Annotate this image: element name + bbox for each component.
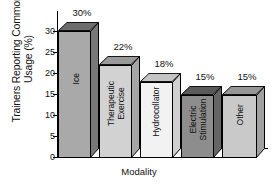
- bar-label-therapeutic-exercise: Therapeutic Exercise: [107, 73, 126, 135]
- bar-label-hydrocollator: Hydrocollator: [152, 84, 162, 140]
- bar-label-other: Other: [236, 93, 246, 137]
- bar-chart: Trainers Reporting Common Usage (%) 30 2…: [0, 0, 278, 186]
- value-label-hydrocollator: 18%: [143, 59, 185, 69]
- value-label-ice: 30%: [61, 8, 103, 18]
- bar-ice[interactable]: Ice: [58, 22, 99, 158]
- bar-therapeutic-exercise-side-face: [131, 56, 140, 158]
- bar-other[interactable]: Other: [222, 86, 265, 158]
- bar-hydrocollator-side-face: [172, 73, 181, 158]
- bar-other-side-face: [256, 86, 265, 158]
- value-label-electric-stimulation: 15%: [184, 72, 226, 82]
- y-axis-tick-labels: 30 25 20 15 10 5 0: [38, 0, 55, 186]
- y-axis-title: Trainers Reporting Common Usage (%): [10, 0, 34, 133]
- bar-therapeutic-exercise[interactable]: Therapeutic Exercise: [99, 56, 140, 158]
- bar-hydrocollator[interactable]: Hydrocollator: [140, 73, 181, 158]
- bar-ice-side-face: [90, 22, 99, 158]
- bar-electric-stimulation[interactable]: Electric Stimulation: [181, 86, 222, 158]
- bar-electric-stimulation-side-face: [213, 86, 222, 158]
- bar-label-electric-stimulation: Electric Stimulation: [189, 89, 208, 151]
- value-label-other: 15%: [226, 72, 268, 82]
- x-axis-title: Modality: [0, 166, 278, 177]
- bar-label-ice: Ice: [72, 57, 82, 101]
- value-label-therapeutic-exercise: 22%: [102, 42, 144, 52]
